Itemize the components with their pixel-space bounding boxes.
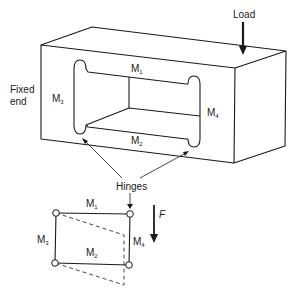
hinges-label: Hinges [116,181,147,192]
hinge-bottom-left [52,260,59,267]
load-label: Load [233,9,255,20]
hinge-top-right [127,211,134,218]
left-slot [74,60,86,134]
force-arrow [150,205,158,243]
link-m4 [129,214,130,265]
block-top-face [41,27,286,68]
block-label-m4: M4 [207,107,219,119]
block-right-face [234,51,286,163]
block-label-m1: M1 [131,63,143,75]
load-arrow [239,22,247,55]
fixed-end-label-line1: Fixed [10,84,34,95]
schematic-label-m1: M1 [86,198,98,210]
link-m2 [55,263,129,265]
schematic-label-m2: M2 [86,247,98,259]
hinge-top-left [53,210,60,217]
beam-m2-top [86,108,200,125]
hinges-pointer-schematic [127,193,133,209]
link-m3 [55,213,56,263]
block-label-m2: M2 [131,135,143,147]
schematic-label-m4: M4 [133,236,145,248]
hinge-bottom-right [126,262,133,269]
right-slot [188,76,200,147]
force-label: F [159,209,166,220]
link-m1 [56,213,130,214]
fixed-end-label-line2: end [10,96,27,107]
schematic-label-m3: M3 [37,234,49,246]
block-label-m3: M3 [52,93,64,105]
block-3d [41,27,286,163]
load-cell-diagram: Load Fixed end M1 M3 M4 M2 Hinges M1 M3 … [0,0,301,295]
